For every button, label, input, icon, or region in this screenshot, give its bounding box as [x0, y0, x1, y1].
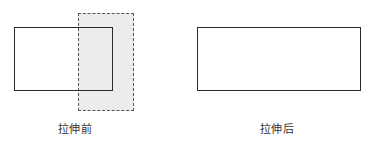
after-stretch-label: 拉伸后 [260, 120, 295, 136]
original-rectangle [14, 27, 113, 91]
stretched-rectangle [197, 27, 361, 91]
before-stretch-label: 拉伸前 [58, 120, 93, 136]
